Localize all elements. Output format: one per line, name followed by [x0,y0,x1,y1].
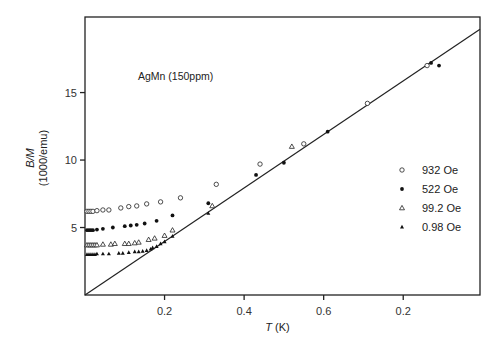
legend-item: 522 Oe [400,183,458,195]
data-point [145,248,149,252]
data-point [144,202,148,206]
data-point [101,252,105,256]
y-tick-label: 10 [65,154,77,166]
data-point [158,200,162,204]
data-point [95,208,99,212]
legend-label: 99.2 Oe [422,202,461,214]
data-point [135,204,139,208]
data-point [206,201,210,205]
legend-label: 522 Oe [422,183,458,195]
data-point [107,208,111,212]
data-point [126,241,131,245]
x-axis-ticks: 0.20.40.60.2 [157,295,411,317]
y-axis-ticks: 51015 [65,87,85,234]
x-axis-label-var: T [265,321,273,333]
x-axis-label-unit: (K) [275,321,290,333]
data-point [95,228,99,232]
y-axis-label-unit: (1000/emu) [37,130,49,186]
legend-marker-icon [400,225,404,229]
data-point [117,251,121,255]
data-point [326,130,330,134]
data-point [425,63,429,67]
data-point [91,228,95,232]
data-point [170,228,175,232]
y-axis-label-var: B/M [24,147,36,167]
data-point [146,237,151,241]
data-point [258,162,262,166]
x-tick-label: 0.6 [316,305,331,317]
legend-marker-icon [400,168,404,172]
y-axis-label: B/M (1000/emu) [24,130,49,186]
chart-canvas: 0.20.40.60.2 51015 AgMn (150ppm) B/M (10… [0,0,503,352]
data-point [155,219,159,223]
data-point [127,204,131,208]
data-point [152,236,157,240]
data-points [84,61,440,256]
data-point [107,252,111,256]
legend-marker-icon [400,205,405,209]
legend-marker-icon [400,187,404,191]
data-point [162,233,167,237]
data-point [137,250,141,254]
data-point [123,224,127,228]
data-point [101,227,105,231]
legend-item: 0.98 Oe [400,221,461,233]
data-point [136,240,141,244]
x-tick-label: 0.4 [236,305,251,317]
chart-annotation: AgMn (150ppm) [138,70,213,82]
data-point [141,249,145,253]
data-point [302,142,306,146]
data-point [437,64,441,68]
legend: 932 Oe522 Oe99.2 Oe0.98 Oe [400,164,462,233]
data-point [133,250,137,254]
data-point [101,208,105,212]
x-tick-label: 0.2 [396,305,411,317]
data-point [171,213,175,217]
y-tick-label: 15 [65,87,77,99]
data-point [178,196,182,200]
legend-item: 932 Oe [400,164,458,176]
data-point [121,251,125,255]
data-point [151,246,155,250]
data-point [111,226,115,230]
data-point [210,203,215,207]
data-point [365,101,369,105]
plot-frame [85,17,480,295]
data-point [112,241,117,245]
data-point [127,250,131,254]
data-point [282,161,286,165]
data-point [119,206,123,210]
x-tick-label: 0.2 [157,305,172,317]
data-point [254,173,258,177]
data-point [214,182,218,186]
x-axis-label: T (K) [265,321,289,333]
data-point [429,61,433,65]
data-point [289,144,294,148]
legend-label: 932 Oe [422,164,458,176]
data-point [135,223,139,227]
legend-label: 0.98 Oe [422,221,461,233]
data-point [100,242,105,246]
legend-item: 99.2 Oe [400,202,462,214]
data-point [143,222,147,226]
data-point [129,224,133,228]
y-tick-label: 5 [71,222,77,234]
